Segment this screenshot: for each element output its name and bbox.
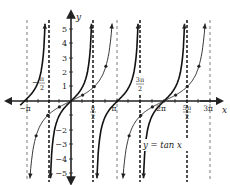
marked-point xyxy=(93,85,96,88)
marked-point xyxy=(35,134,38,137)
tangent-graph: 5 4 3 2 1 −2 −3 −4 −5 y x −π − π 2 π 2 π… xyxy=(0,0,230,185)
marked-point xyxy=(46,114,49,117)
x-tick-3pi: 3π xyxy=(203,104,213,113)
curve-label: y = tan x xyxy=(142,140,182,150)
arrowhead-icon xyxy=(182,24,186,29)
marked-point xyxy=(174,93,177,96)
y-tick-neg4: −4 xyxy=(55,155,67,164)
svg-text:2: 2 xyxy=(40,84,44,92)
y-tick-5: 5 xyxy=(62,25,67,34)
marked-point xyxy=(139,114,142,117)
svg-text:2: 2 xyxy=(185,113,189,121)
y-tick-3: 3 xyxy=(62,54,67,63)
svg-text:3π: 3π xyxy=(136,76,145,84)
y-axis-label: y xyxy=(75,12,82,22)
x-tick-three-half-pi: 3π 2 xyxy=(133,75,147,94)
svg-text:5π: 5π xyxy=(183,104,192,112)
y-tick-neg2: −2 xyxy=(55,126,67,135)
y-tick-neg5: −5 xyxy=(55,169,67,178)
arrowhead-icon xyxy=(141,173,145,178)
marked-point xyxy=(128,134,131,137)
y-tick-4: 4 xyxy=(62,39,67,48)
x-axis-label: x xyxy=(222,105,227,115)
y-tick-2: 2 xyxy=(62,68,67,77)
arrowhead-icon xyxy=(95,173,99,178)
svg-text:2: 2 xyxy=(91,113,95,121)
marked-point xyxy=(197,65,200,68)
arrowhead-icon xyxy=(43,24,47,29)
marked-point xyxy=(104,65,107,68)
y-tick-1: 1 xyxy=(62,82,67,91)
x-tick-half-pi: π 2 xyxy=(90,104,96,121)
tan-branch-1 xyxy=(20,24,45,106)
marked-point xyxy=(58,105,61,108)
y-axis xyxy=(69,14,73,181)
marked-point xyxy=(151,105,154,108)
marked-point xyxy=(186,85,189,88)
svg-text:2: 2 xyxy=(138,85,142,93)
y-tick-neg3: −3 xyxy=(55,140,67,149)
x-axis xyxy=(8,99,220,103)
x-tick-five-half-pi: 5π 2 xyxy=(183,104,192,121)
marked-point xyxy=(81,93,84,96)
svg-text:π: π xyxy=(91,104,96,112)
